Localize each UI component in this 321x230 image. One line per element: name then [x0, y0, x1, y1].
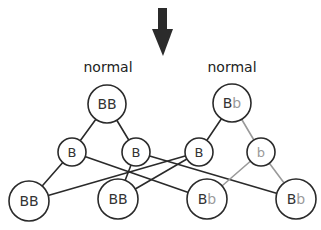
offspring-node-4: Bb — [276, 179, 316, 219]
gamete-node-3: B — [185, 138, 213, 166]
gamete-node-4: b — [247, 138, 275, 166]
left-parent-label: normal — [83, 59, 132, 75]
punnett-cross-diagram: normal normal BB Bb B B — [0, 0, 321, 230]
parent-node-bb-het: Bb — [213, 84, 251, 122]
offspring-node-1: BB — [9, 181, 49, 221]
svg-text:B: B — [132, 145, 141, 160]
parent-node-bb: BB — [88, 85, 126, 123]
svg-text:b: b — [257, 145, 265, 160]
svg-text:B: B — [68, 145, 77, 160]
svg-text:Bb: Bb — [198, 191, 217, 207]
offspring-node-2: BB — [98, 179, 138, 219]
svg-text:Bb: Bb — [287, 191, 306, 207]
svg-text:BB: BB — [19, 193, 38, 209]
gamete-node-1: B — [58, 138, 86, 166]
gamete-node-2: B — [122, 138, 150, 166]
right-parent-label: normal — [207, 59, 256, 75]
svg-text:BB: BB — [97, 96, 116, 112]
svg-text:Bb: Bb — [223, 95, 242, 111]
offspring-node-3: Bb — [187, 179, 227, 219]
svg-text:B: B — [195, 145, 204, 160]
down-arrow-icon — [152, 8, 173, 56]
svg-text:BB: BB — [108, 191, 127, 207]
